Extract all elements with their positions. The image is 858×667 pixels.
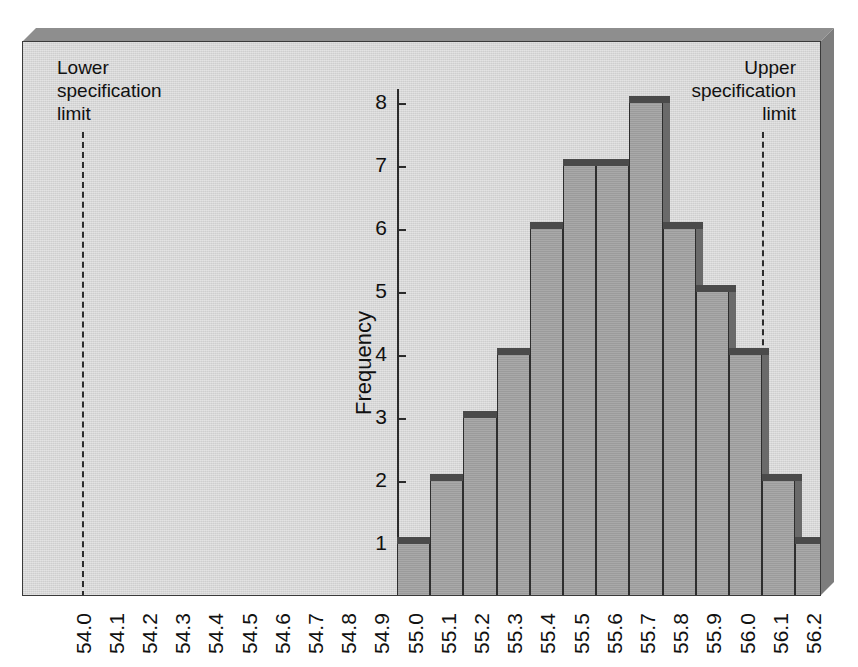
- histogram-bar: [696, 292, 729, 596]
- bar-top-face: [629, 96, 669, 103]
- histogram-bar: [430, 481, 463, 596]
- x-axis-tick-label: 54.2: [138, 613, 162, 654]
- chart-frame: Lower specification limit Upper specific…: [22, 28, 834, 596]
- histogram-bar: [563, 166, 596, 596]
- x-axis-tick-label: 56.0: [736, 613, 760, 654]
- x-axis-tick-label: 55.5: [570, 613, 594, 654]
- x-axis-tick-label: 56.2: [802, 613, 826, 654]
- bar-top-face: [729, 348, 769, 355]
- x-axis-tick-label: 55.6: [603, 613, 627, 654]
- x-axis-tick-label: 54.5: [238, 613, 262, 654]
- histogram-bar: [530, 229, 563, 596]
- x-axis-tick-label: 55.0: [404, 613, 428, 654]
- x-axis-tick-label: 55.2: [470, 613, 494, 654]
- y-axis-tick-label: 5: [361, 279, 387, 303]
- x-axis-tick-label: 54.6: [271, 613, 295, 654]
- bar-top-face: [696, 285, 736, 292]
- histogram-bar: [463, 418, 496, 596]
- plot-panel: Lower specification limit Upper specific…: [22, 41, 821, 596]
- x-axis-tick-label: 54.9: [370, 613, 394, 654]
- bar-top-face: [663, 222, 703, 229]
- histogram-bar: [629, 103, 662, 596]
- x-axis-tick-label: 55.3: [503, 613, 527, 654]
- y-axis-tick: [397, 229, 406, 231]
- x-axis-tick-label: 55.4: [536, 613, 560, 654]
- histogram-figure: Lower specification limit Upper specific…: [0, 0, 858, 667]
- x-axis-tick-label: 55.9: [702, 613, 726, 654]
- x-axis-tick-label: 54.0: [72, 613, 96, 654]
- x-axis-tick-label: 55.8: [669, 613, 693, 654]
- histogram-bar: [795, 544, 821, 596]
- histogram-bar: [729, 355, 762, 596]
- x-axis-tick-label: 54.1: [105, 613, 129, 654]
- upper-specification-limit-line: [762, 132, 764, 355]
- x-axis-tick-label: 54.4: [204, 613, 228, 654]
- y-axis-tick: [397, 481, 406, 483]
- bar-top-face: [762, 474, 802, 481]
- histogram-bar: [663, 229, 696, 596]
- lower-specification-limit-line: [82, 132, 84, 596]
- histogram-bar: [397, 544, 430, 596]
- frame-right-bevel: [820, 28, 834, 596]
- y-axis-tick-label: 1: [361, 531, 387, 555]
- y-axis-tick-label: 6: [361, 216, 387, 240]
- histogram-bar: [762, 481, 795, 596]
- x-axis-tick-label: 54.8: [337, 613, 361, 654]
- y-axis-tick-label: 7: [361, 153, 387, 177]
- x-axis-tick-label: 55.1: [437, 613, 461, 654]
- bar-top-face: [795, 537, 821, 544]
- histogram-bar: [596, 166, 629, 596]
- y-axis-tick: [397, 418, 406, 420]
- frame-top-bevel: [22, 28, 834, 42]
- y-axis-tick-label: 2: [361, 468, 387, 492]
- y-axis-title: Frequency: [351, 311, 377, 415]
- x-axis-tick-label: 54.7: [304, 613, 328, 654]
- lower-specification-limit-label: Lower specification limit: [57, 56, 162, 125]
- upper-specification-limit-label: Upper specification limit: [691, 56, 796, 125]
- x-axis-tick-label: 54.3: [171, 613, 195, 654]
- x-axis-tick-label: 55.7: [636, 613, 660, 654]
- y-axis-tick: [397, 166, 406, 168]
- histogram-bar: [497, 355, 530, 596]
- y-axis-tick-label: 8: [361, 90, 387, 114]
- x-axis-tick-label: 56.1: [769, 613, 793, 654]
- y-axis-tick: [397, 355, 406, 357]
- y-axis-tick: [397, 292, 406, 294]
- y-axis-tick: [397, 103, 406, 105]
